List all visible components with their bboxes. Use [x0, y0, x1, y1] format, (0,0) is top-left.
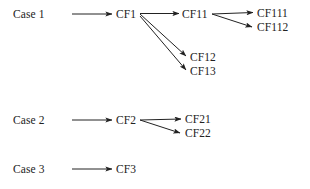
diagram-canvas: Case 1 CF1 CF11 CF111 CF112 CF12 CF13 Ca…: [0, 0, 310, 189]
node-cf112: CF112: [257, 21, 288, 33]
node-cf13: CF13: [190, 65, 216, 77]
edge-cf11-to-cf111: [212, 13, 253, 15]
node-cf111: CF111: [257, 7, 288, 19]
case-label-case1: Case 1: [13, 8, 45, 20]
case-label-case3: Case 3: [13, 163, 45, 175]
node-cf21: CF21: [185, 113, 211, 125]
node-cf1: CF1: [116, 8, 136, 20]
edge-cf2-to-cf21: [140, 119, 181, 120]
node-cf12: CF12: [190, 51, 216, 63]
edge-cf1-to-cf12: [140, 14, 186, 56]
edge-cf1-to-cf13: [140, 16, 186, 70]
case-label-case2: Case 2: [13, 114, 45, 126]
node-cf2: CF2: [116, 114, 136, 126]
node-cf22: CF22: [185, 127, 211, 139]
node-cf11: CF11: [182, 8, 208, 20]
node-cf3: CF3: [116, 163, 136, 175]
edge-cf11-to-cf112: [212, 14, 252, 27]
edge-cf2-to-cf22: [140, 120, 180, 133]
